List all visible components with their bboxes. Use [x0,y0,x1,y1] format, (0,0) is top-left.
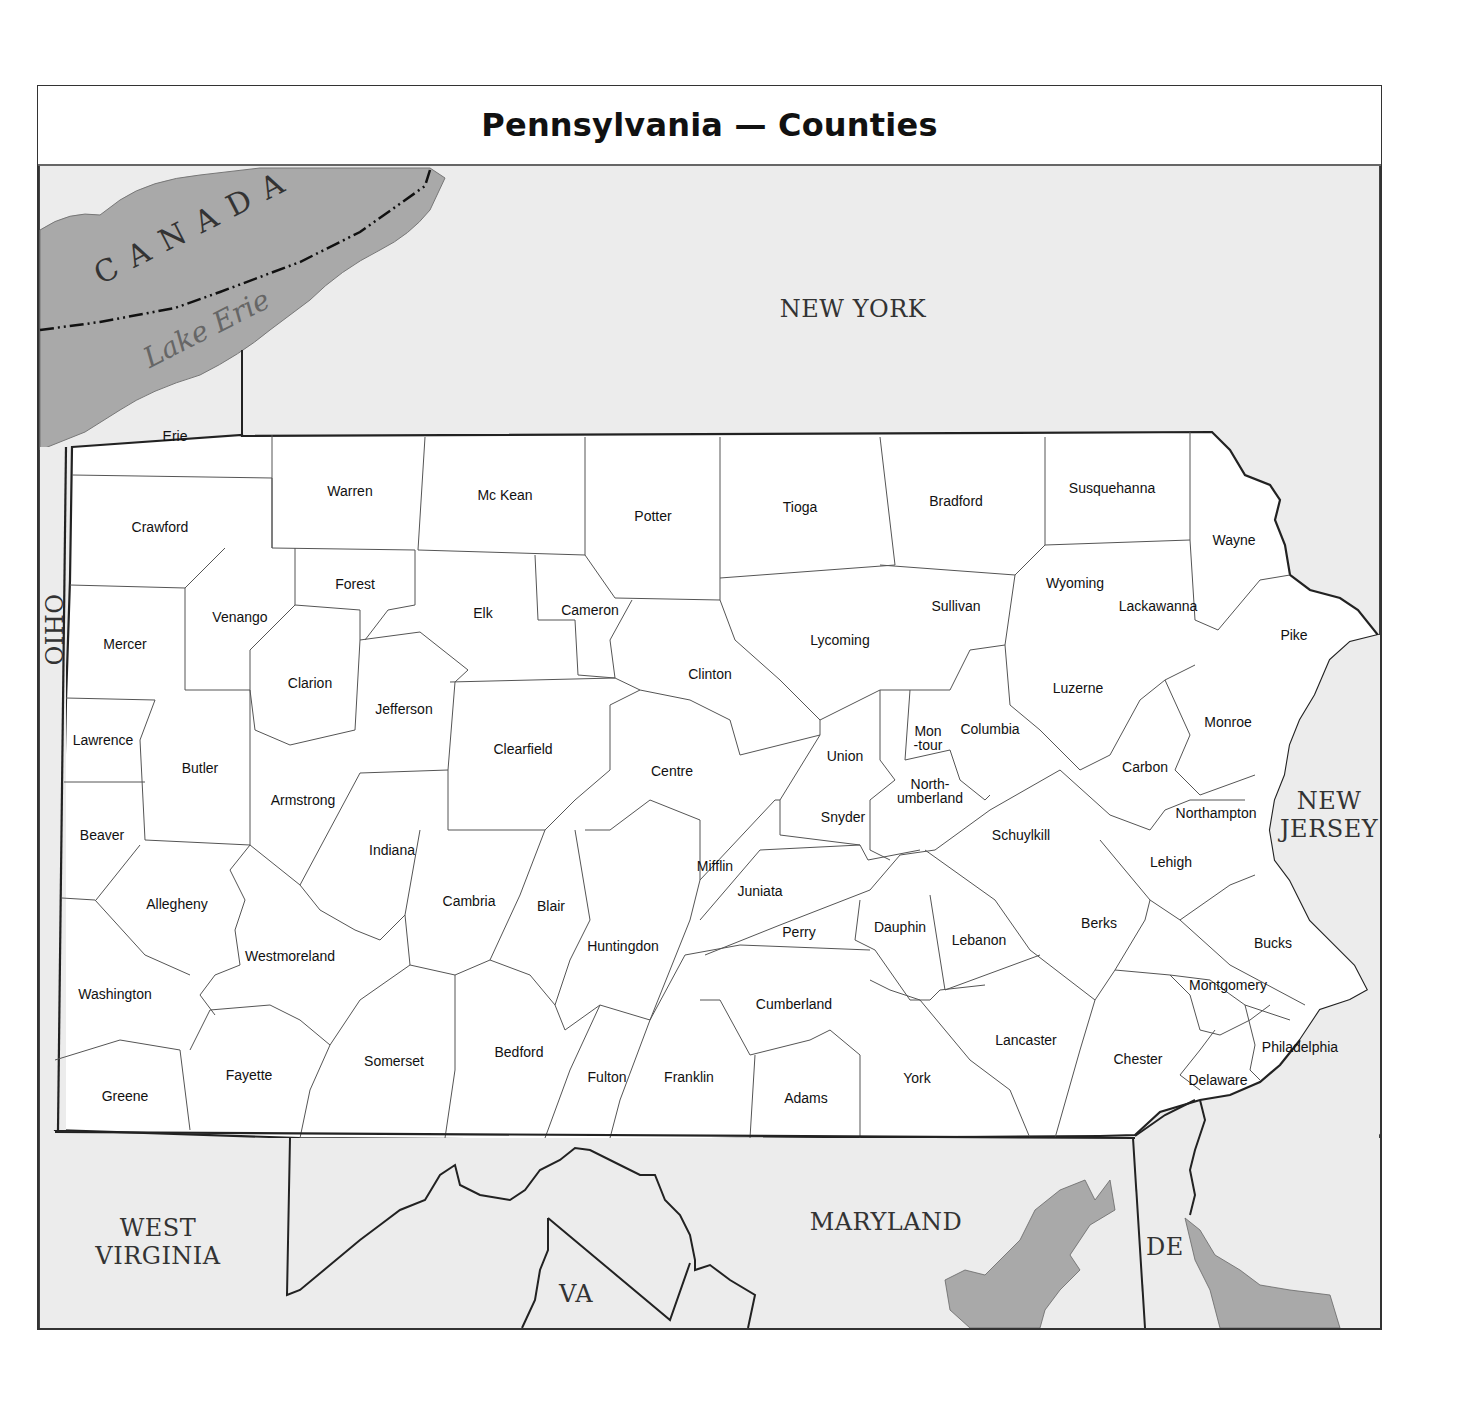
county-label: Allegheny [146,897,208,911]
county-label: Westmoreland [245,949,335,963]
county-label: Lackawanna [1119,599,1198,613]
county-label: Schuylkill [992,828,1050,842]
county-label: Warren [327,484,372,498]
county-label: Union [827,749,864,763]
label-ohio: OHIO [38,594,66,666]
county-label: Tioga [783,500,818,514]
county-label: Lawrence [73,733,134,747]
county-label: Cameron [561,603,619,617]
county-label: Indiana [369,843,415,857]
county-label: Fayette [226,1068,273,1082]
county-label: Clinton [688,667,732,681]
county-label: Crawford [132,520,189,534]
county-label: Philadelphia [1262,1040,1338,1054]
county-label: Venango [212,610,267,624]
county-label: Clearfield [493,742,552,756]
county-label: Montgomery [1189,978,1267,992]
title-bar: Pennsylvania — Counties [38,86,1381,166]
county-label: Somerset [364,1054,424,1068]
county-label: Beaver [80,828,124,842]
county-label: Mon -tour [914,724,943,752]
county-label: Cambria [443,894,496,908]
map-title: Pennsylvania — Counties [481,106,937,144]
label-west-virginia: WEST VIRGINIA [95,1215,220,1270]
label-delaware: DE [1146,1234,1184,1262]
county-label: Carbon [1122,760,1168,774]
county-label: Bradford [929,494,983,508]
county-label: York [903,1071,931,1085]
label-virginia: VA [559,1281,593,1309]
county-label: Northampton [1176,806,1257,820]
county-label: Huntingdon [587,939,659,953]
county-label: Dauphin [874,920,926,934]
county-label: Juniata [737,884,782,898]
county-label: Adams [784,1091,828,1105]
county-label: Luzerne [1053,681,1104,695]
county-label: Jefferson [375,702,432,716]
county-label: Delaware [1188,1073,1247,1087]
county-label: Franklin [664,1070,714,1084]
county-label: Mifflin [697,859,733,873]
county-label: Susquehanna [1069,481,1155,495]
county-label: Greene [102,1089,149,1103]
county-label: Washington [78,987,151,1001]
pennsylvania-outline [55,432,1378,1140]
county-label: Clarion [288,676,332,690]
county-label: Butler [182,761,219,775]
county-label: Berks [1081,916,1117,930]
county-label: Lehigh [1150,855,1192,869]
county-label: Centre [651,764,693,778]
county-label: Wayne [1212,533,1255,547]
county-label: Blair [537,899,565,913]
county-label: Sullivan [931,599,980,613]
county-label: Lebanon [952,933,1007,947]
county-label: Mercer [103,637,147,651]
county-label: Snyder [821,810,865,824]
county-label: Elk [473,606,492,620]
county-label: Monroe [1204,715,1251,729]
county-label: Columbia [960,722,1019,736]
county-label: North- umberland [897,777,963,805]
label-new-jersey: NEW JERSEY [1280,788,1378,843]
county-label: Erie [163,429,188,443]
label-new-york: NEW YORK [780,296,926,324]
county-label: Armstrong [271,793,336,807]
county-label: Lycoming [810,633,869,647]
county-label: Cumberland [756,997,832,1011]
county-label: Mc Kean [477,488,532,502]
county-label: Lancaster [995,1033,1056,1047]
county-label: Perry [782,925,815,939]
county-label: Pike [1280,628,1307,642]
county-label: Wyoming [1046,576,1104,590]
county-label: Potter [634,509,671,523]
county-label: Chester [1113,1052,1162,1066]
county-label: Bedford [494,1045,543,1059]
label-maryland: MARYLAND [810,1209,963,1237]
county-label: Fulton [588,1070,627,1084]
county-label: Bucks [1254,936,1292,950]
county-label: Forest [335,577,375,591]
